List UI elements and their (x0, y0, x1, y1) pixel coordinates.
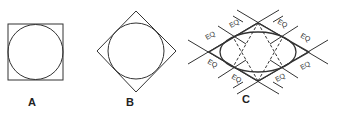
eq-label: EQ (299, 59, 312, 71)
figure-b (97, 11, 176, 92)
circle-a (8, 25, 63, 80)
eq-label: EQ (276, 18, 289, 30)
figure-a (8, 24, 63, 80)
label-a: A (28, 96, 36, 108)
diagram-canvas: A B EQ EQ EQ (0, 0, 339, 117)
eq-label: EQ (299, 32, 312, 44)
label-c: C (242, 93, 250, 105)
figure-c (188, 10, 328, 94)
label-b: B (126, 96, 134, 108)
eq-label: EQ (206, 58, 219, 70)
ellipse-c (220, 32, 296, 72)
eq-label: EQ (204, 29, 217, 41)
construction-line (218, 26, 246, 44)
circle-b (108, 23, 164, 79)
construction-line (273, 82, 283, 88)
eq-label: EQ (274, 71, 287, 83)
construction-line (270, 26, 298, 44)
